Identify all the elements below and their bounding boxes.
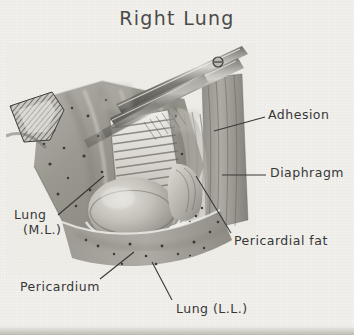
label-diaphragm: Diaphragm (270, 166, 344, 180)
label-pericardial-fat-text: Pericardial fat (234, 233, 328, 248)
label-lung-ll: Lung (L.L.) (176, 302, 248, 316)
label-pericardium-text: Pericardium (20, 279, 100, 294)
lung-illustration (6, 44, 256, 276)
label-pericardium: Pericardium (20, 280, 100, 294)
diaphragm-surface (202, 74, 248, 230)
figure-title: Right Lung (0, 7, 354, 29)
label-adhesion: Adhesion (268, 108, 329, 122)
label-lung-ml-text: Lung (14, 207, 47, 222)
label-lung-ml: Lung (M.L.) (14, 208, 61, 238)
label-adhesion-text: Adhesion (268, 107, 329, 122)
page-bottom-edge (0, 326, 354, 335)
figure-page: Right Lung (0, 0, 354, 335)
label-pericardial-fat: Pericardial fat (234, 234, 328, 248)
label-lung-ml-sub: (M.L.) (14, 223, 61, 238)
label-lung-ll-text: Lung (L.L.) (176, 301, 248, 316)
label-diaphragm-text: Diaphragm (270, 165, 344, 180)
